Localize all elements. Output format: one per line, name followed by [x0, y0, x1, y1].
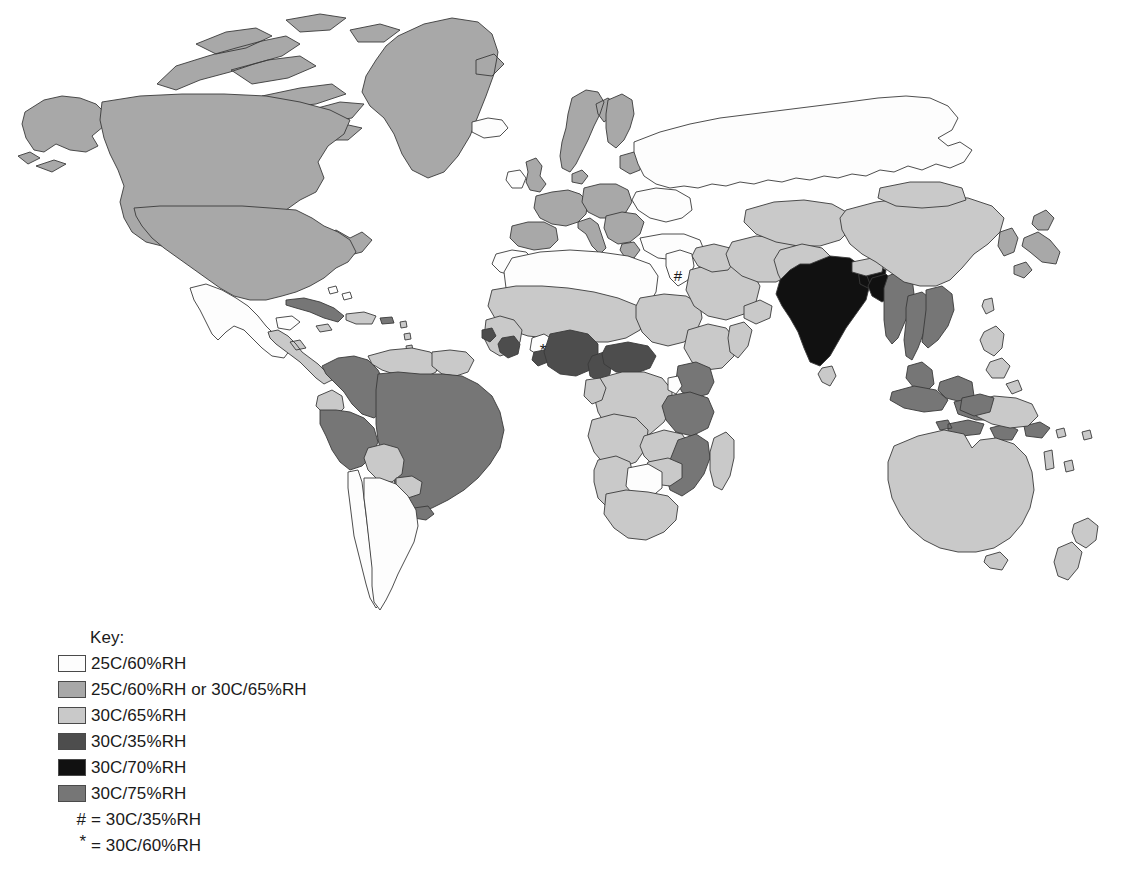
legend-note-star-label: 30C/60%RH [106, 836, 201, 855]
legend-swatch-30-35 [58, 733, 86, 750]
legend-row-30-75: 30C/75%RH [58, 782, 578, 805]
legend-row-30-70: 30C/70%RH [58, 756, 578, 779]
legend-label-25-60: 25C/60%RH [91, 654, 186, 674]
legend-note-hash-symbol: # [58, 810, 86, 830]
legend-label-30-65: 30C/65%RH [91, 706, 186, 726]
legend-label-30-75: 30C/75%RH [91, 784, 186, 804]
legend-note-hash-label: 30C/35%RH [106, 810, 201, 829]
legend-note-star-text: = 30C/60%RH [91, 836, 201, 856]
legend-label-30-70: 30C/70%RH [91, 758, 186, 778]
legend-swatch-25-60 [58, 655, 86, 672]
legend-title: Key: [90, 628, 578, 647]
legend-row-25-60-or-30-65: 25C/60%RH or 30C/65%RH [58, 678, 578, 701]
world-map-svg: # * [0, 0, 1145, 640]
country-puerto-rico [380, 317, 394, 324]
legend-swatch-30-65 [58, 707, 86, 724]
map-container: # * [0, 0, 1145, 640]
world-climate-map-page: # * Key: 25C/60%RH 25C/60%RH or 30C/65%R… [0, 0, 1145, 883]
marker-star-west-africa: * [540, 341, 547, 360]
legend-row-30-65: 30C/65%RH [58, 704, 578, 727]
legend-label-25-60-or-30-65: 25C/60%RH or 30C/65%RH [91, 680, 307, 700]
legend-note-star: * = 30C/60%RH [58, 834, 578, 857]
country-iberia [510, 222, 558, 250]
legend-label-30-35: 30C/35%RH [91, 732, 186, 752]
legend-note-star-equals: = [91, 836, 101, 855]
legend-swatch-25-60-or-30-65 [58, 681, 86, 698]
legend-note-star-symbol: * [58, 832, 86, 852]
legend-swatch-30-75 [58, 785, 86, 802]
marker-hash-middle-east: # [674, 267, 683, 284]
country-mongolia [878, 182, 966, 208]
legend-row-30-35: 30C/35%RH [58, 730, 578, 753]
legend-note-hash: # = 30C/35%RH [58, 808, 578, 831]
legend-note-hash-equals: = [91, 810, 101, 829]
legend: Key: 25C/60%RH 25C/60%RH or 30C/65%RH 30… [58, 628, 578, 860]
legend-swatch-30-70 [58, 759, 86, 776]
legend-note-hash-text: = 30C/35%RH [91, 810, 201, 830]
legend-row-25-60: 25C/60%RH [58, 652, 578, 675]
